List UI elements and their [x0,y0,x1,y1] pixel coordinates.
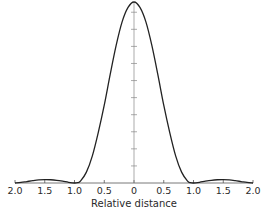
x-tick-label: 0 [131,185,137,196]
x-tick-label: 2.0 [7,185,22,196]
y-axis [131,2,137,183]
x-tick-label: 0.5 [156,185,171,196]
x-tick-label: 0.5 [97,185,112,196]
x-tick-label: 2.0 [245,185,260,196]
x-tick-labels: 2.01.51.00.500.51.01.52.0 [7,185,260,196]
x-tick-label: 1.5 [37,185,52,196]
x-tick-label: 1.0 [186,185,201,196]
x-tick-label: 1.0 [67,185,82,196]
intensity-profile-chart: 2.01.51.00.500.51.01.52.0 Relative dista… [0,0,268,212]
x-axis-title: Relative distance [91,198,177,209]
x-tick-label: 1.5 [216,185,231,196]
